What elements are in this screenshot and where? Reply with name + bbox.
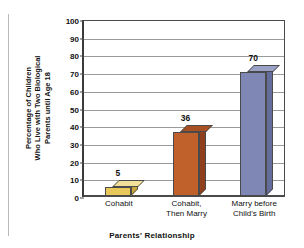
bar-front-face: [173, 132, 199, 196]
y-axis-title-line-3: Parents until Age 18: [43, 56, 53, 161]
bar-side-face: [199, 125, 206, 196]
bar-front-face: [105, 187, 131, 196]
bar-front-face: [240, 72, 266, 196]
y-axis-tick-mark: [80, 21, 84, 22]
x-axis-category-label-line: Cohabit,: [166, 199, 207, 209]
y-axis-title-line-2: Who Live with Two Biological: [33, 56, 43, 161]
x-axis-title: Parents' Relationship: [0, 231, 304, 240]
bar-value-label: 36: [181, 113, 190, 123]
y-axis-title-line-1: Percentage of Children: [24, 56, 34, 161]
y-axis-title: Percentage of Children Who Live with Two…: [18, 33, 58, 183]
x-axis-category-label-line: Marry before: [231, 199, 276, 209]
gridline: [84, 39, 284, 40]
bar: 70: [240, 72, 266, 196]
y-axis-tick-mark: [80, 91, 84, 92]
x-axis-category-label-line: Cohabit: [105, 199, 133, 209]
bar: 36: [173, 132, 199, 196]
x-axis-category-label-line: Then Marry: [166, 209, 207, 219]
bar-top-face: [112, 180, 145, 187]
y-axis-tick-mark: [80, 127, 84, 128]
bar-value-label: 5: [115, 168, 120, 178]
bar-side-face: [266, 65, 273, 196]
y-axis-tick-mark: [80, 144, 84, 145]
bar: 5: [105, 187, 131, 196]
y-axis-tick-label: 70: [70, 70, 79, 79]
y-axis-tick-mark: [80, 56, 84, 57]
plot-area: 010203040506070809010053670: [82, 20, 285, 197]
bar-chart-figure: Percentage of Children Who Live with Two…: [0, 0, 304, 248]
y-axis-tick-mark: [80, 109, 84, 110]
bar-value-label: 70: [248, 53, 257, 63]
y-axis-tick-mark: [80, 180, 84, 181]
y-axis-tick-label: 30: [70, 140, 79, 149]
left-edge-rule: [8, 14, 9, 236]
y-axis-tick-label: 0: [75, 194, 79, 203]
y-axis-tick-label: 40: [70, 123, 79, 132]
bar-top-face: [180, 125, 213, 132]
y-axis-tick-mark: [80, 38, 84, 39]
x-axis-category-label-line: Child's Birth: [231, 209, 276, 219]
x-axis-category-label: Cohabit,Then Marry: [166, 199, 207, 219]
y-axis-tick-label: 10: [70, 176, 79, 185]
y-axis-tick-label: 50: [70, 105, 79, 114]
y-axis-tick-label: 80: [70, 52, 79, 61]
y-axis-tick-label: 100: [66, 17, 79, 26]
y-axis-tick-label: 90: [70, 34, 79, 43]
x-axis-category-label: Marry beforeChild's Birth: [231, 199, 276, 219]
y-axis-tick-label: 60: [70, 87, 79, 96]
x-axis-category-labels: CohabitCohabit,Then MarryMarry beforeChi…: [82, 199, 285, 227]
x-axis-category-label: Cohabit: [105, 199, 133, 209]
y-axis-tick-mark: [80, 162, 84, 163]
y-axis-tick-mark: [80, 74, 84, 75]
bar-top-face: [247, 65, 280, 72]
y-axis-tick-label: 20: [70, 158, 79, 167]
